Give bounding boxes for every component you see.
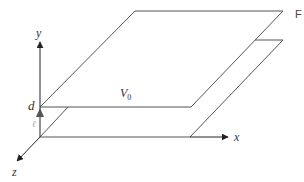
z-axis bbox=[17, 137, 40, 161]
gap-label: ℓ bbox=[32, 119, 36, 129]
lower-plate bbox=[40, 40, 283, 137]
separation-arrow-icon bbox=[36, 108, 44, 117]
z-axis-label: z bbox=[11, 165, 17, 179]
parallel-plate-diagram: y x z d ℓ V0 F bbox=[0, 0, 304, 182]
upper-plate bbox=[40, 11, 283, 107]
x-axis-label: x bbox=[233, 130, 240, 144]
separation-label: d bbox=[28, 98, 35, 113]
potential-label: V0 bbox=[120, 86, 131, 102]
corner-letter: F bbox=[295, 8, 302, 20]
y-axis-label: y bbox=[35, 26, 42, 40]
